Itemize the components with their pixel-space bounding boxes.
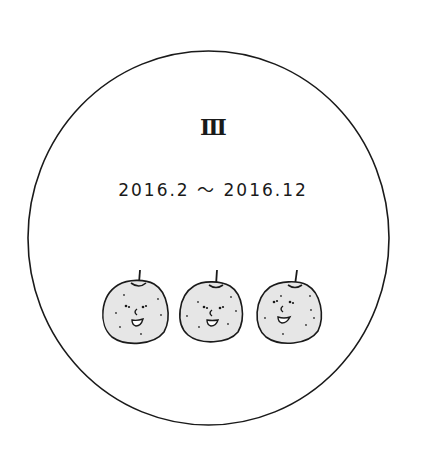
date-range-text: 2016.2 〜 2016.12 (0, 176, 426, 201)
pear-2-icon (180, 270, 243, 342)
illustration-canvas: Ⅲ 2016.2 〜 2016.12 (0, 0, 426, 466)
pear-3-icon (257, 270, 321, 343)
circle-frame (28, 51, 389, 425)
pear-1-icon (103, 270, 168, 343)
circle-frame-drawing (0, 0, 426, 466)
volume-numeral: Ⅲ (0, 114, 426, 140)
